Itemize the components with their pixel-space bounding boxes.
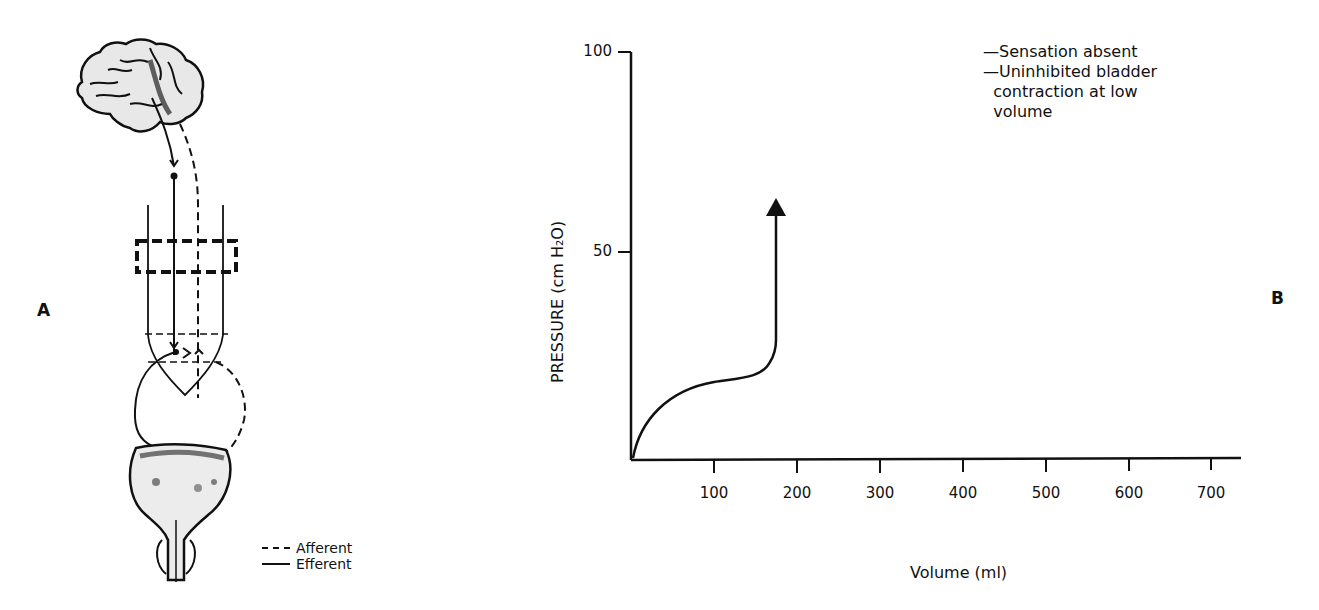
x-tick-300: 300 xyxy=(855,484,905,502)
brain-icon xyxy=(78,40,204,132)
x-tick-100: 100 xyxy=(689,484,739,502)
x-tick-500: 500 xyxy=(1021,484,1071,502)
chart-annotations: —Sensation absent —Uninhibited bladder c… xyxy=(983,42,1243,122)
solid-line-icon xyxy=(262,563,290,565)
legend-item-efferent: Efferent xyxy=(262,556,352,572)
x-tick-200: 200 xyxy=(772,484,822,502)
legend-label: Afferent xyxy=(296,540,352,556)
legend-item-afferent: Afferent xyxy=(262,540,352,556)
annotation-line: contraction at low xyxy=(983,82,1243,102)
x-tick-400: 400 xyxy=(938,484,988,502)
x-axis-label: Volume (ml) xyxy=(910,563,1007,582)
bladder-icon xyxy=(130,444,230,582)
pressure-curve xyxy=(633,216,776,458)
annotation-line: volume xyxy=(983,102,1243,122)
annotation-line: —Uninhibited bladder xyxy=(983,62,1243,82)
y-axis-label: PRESSURE (cm H₂O) xyxy=(548,221,567,383)
dashed-line-icon xyxy=(262,547,290,549)
arrow-up-icon xyxy=(766,198,786,216)
y-tick-50: 50 xyxy=(572,242,612,260)
x-tick-700: 700 xyxy=(1186,484,1236,502)
y-tick-100: 100 xyxy=(572,42,612,60)
annotation-line: —Sensation absent xyxy=(983,42,1243,62)
legend: Afferent Efferent xyxy=(262,540,352,572)
x-tick-600: 600 xyxy=(1104,484,1154,502)
legend-label: Efferent xyxy=(296,556,352,572)
